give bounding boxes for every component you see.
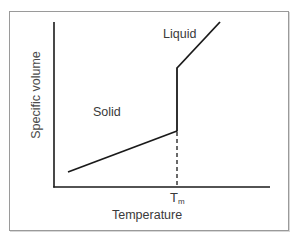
liquid-label: Liquid (163, 27, 196, 41)
diagram-canvas (0, 0, 300, 242)
melting-temperature-label: Tm (170, 190, 185, 206)
solid-label: Solid (93, 105, 121, 119)
tm-subscript: m (178, 197, 185, 206)
y-axis-label: Specific volume (29, 51, 43, 139)
x-axis-label: Temperature (112, 208, 182, 222)
tm-base: T (170, 190, 178, 205)
solid-line (68, 131, 177, 172)
